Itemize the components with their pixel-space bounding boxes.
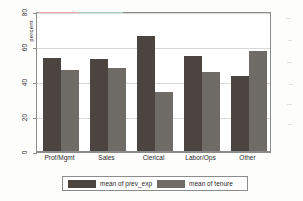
bar [231, 76, 249, 151]
bar [249, 51, 267, 151]
y-tick-label: 80 [21, 6, 28, 20]
legend-entry: mean of tenure [157, 180, 233, 188]
bar-group [131, 13, 178, 151]
light-gray-swatch [157, 180, 185, 188]
legend-label: mean of tenure [189, 180, 233, 187]
bar [108, 68, 126, 151]
scan-artifact [287, 62, 292, 63]
scan-artifact [38, 12, 78, 13]
scan-artifact [287, 104, 292, 105]
y-tick-label: 40 [21, 76, 28, 90]
bar [90, 59, 108, 151]
bar-group [225, 13, 272, 151]
legend: mean of prev_expmean of tenure [62, 176, 248, 191]
scan-artifact [289, 84, 293, 85]
x-axis-label: Sales [83, 154, 130, 161]
x-axis-label: Clerical [130, 154, 177, 161]
bar-chart-figure: percent 020406080 Prof/MgmtSalesClerical… [0, 0, 303, 201]
dark-gray-swatch [68, 180, 96, 188]
bar-group [37, 13, 84, 151]
scan-artifact [288, 40, 292, 41]
plot-area: percent 020406080 [36, 12, 271, 152]
bar-group [84, 13, 131, 151]
bar-group [178, 13, 225, 151]
x-axis-label: Labor/Ops [177, 154, 224, 161]
scan-artifact [78, 12, 123, 13]
x-axis-label: Other [224, 154, 271, 161]
bar [43, 58, 61, 151]
y-tick-label: 0 [21, 146, 28, 160]
bar [202, 72, 220, 151]
legend-label: mean of prev_exp [100, 180, 152, 187]
scan-artifact [288, 124, 292, 125]
legend-entry: mean of prev_exp [68, 180, 152, 188]
bar [155, 92, 173, 151]
y-tick-label: 60 [21, 41, 28, 55]
x-axis-line [36, 152, 271, 153]
y-tick-label: 20 [21, 111, 28, 125]
bar-series-container [37, 13, 270, 151]
bar [61, 70, 79, 151]
bar [184, 56, 202, 151]
x-axis-label: Prof/Mgmt [36, 154, 83, 161]
bar [137, 36, 155, 152]
y-axis-title: percent [28, 1, 34, 61]
scan-artifact [286, 18, 291, 19]
